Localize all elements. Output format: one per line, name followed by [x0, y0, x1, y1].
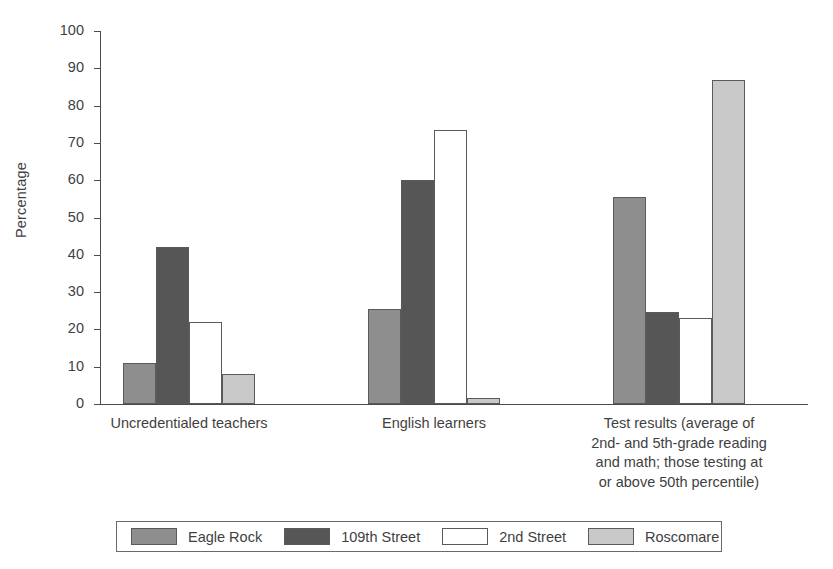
category-label: Test results (average of2nd- and 5th-gra…	[519, 414, 833, 492]
y-tick-label: 20	[44, 320, 84, 336]
category-label-line: or above 50th percentile)	[519, 473, 833, 493]
category-label-line: 2nd- and 5th-grade reading	[519, 434, 833, 454]
y-tick-label: 0	[44, 395, 84, 411]
bar	[712, 80, 745, 405]
legend-label: 109th Street	[341, 529, 420, 545]
y-tick-label: 90	[44, 59, 84, 75]
y-tick-50: 50	[94, 218, 100, 219]
bar	[613, 197, 646, 404]
y-tick-label: 10	[44, 358, 84, 374]
y-tick-label: 70	[44, 134, 84, 150]
legend-swatch-icon	[131, 528, 177, 545]
y-tick-label: 80	[44, 97, 84, 113]
legend-swatch-icon	[588, 528, 634, 545]
y-tick-0: 0	[94, 404, 100, 405]
y-tick-label: 60	[44, 171, 84, 187]
y-tick-90: 90	[94, 68, 100, 69]
bar-chart: Percentage 1009080706050403020100 Uncred…	[0, 0, 833, 569]
bar	[156, 247, 189, 404]
y-tick-80: 80	[94, 106, 100, 107]
legend: Eagle Rock109th Street2nd StreetRoscomar…	[116, 521, 722, 552]
x-axis-line	[100, 404, 808, 405]
bar	[368, 309, 401, 404]
y-tick-40: 40	[94, 255, 100, 256]
y-tick-20: 20	[94, 329, 100, 330]
bar	[434, 130, 467, 404]
y-axis-title: Percentage	[13, 150, 29, 250]
legend-label: Eagle Rock	[188, 529, 262, 545]
y-axis-line	[100, 31, 101, 405]
category-label-line: Test results (average of	[519, 414, 833, 434]
y-tick-label: 30	[44, 283, 84, 299]
bar	[401, 180, 434, 404]
category-label-line: and math; those testing at	[519, 453, 833, 473]
y-tick-label: 40	[44, 246, 84, 262]
legend-label: 2nd Street	[499, 529, 566, 545]
bar	[467, 398, 500, 404]
y-tick-30: 30	[94, 292, 100, 293]
y-tick-label: 50	[44, 209, 84, 225]
bar	[123, 363, 156, 404]
legend-label: Roscomare	[645, 529, 719, 545]
plot-area: 1009080706050403020100	[100, 31, 808, 404]
y-tick-60: 60	[94, 180, 100, 181]
bar	[646, 312, 679, 405]
bar	[679, 318, 712, 404]
y-tick-10: 10	[94, 367, 100, 368]
legend-swatch-icon	[442, 528, 488, 545]
legend-swatch-icon	[284, 528, 330, 545]
legend-entry[interactable]: 2nd Street	[442, 528, 566, 545]
y-tick-100: 100	[94, 31, 100, 32]
legend-entry[interactable]: Eagle Rock	[131, 528, 262, 545]
legend-entry[interactable]: Roscomare	[588, 528, 719, 545]
y-tick-label: 100	[44, 22, 84, 38]
bar	[189, 322, 222, 404]
bar	[222, 374, 255, 404]
legend-entry[interactable]: 109th Street	[284, 528, 420, 545]
y-tick-70: 70	[94, 143, 100, 144]
